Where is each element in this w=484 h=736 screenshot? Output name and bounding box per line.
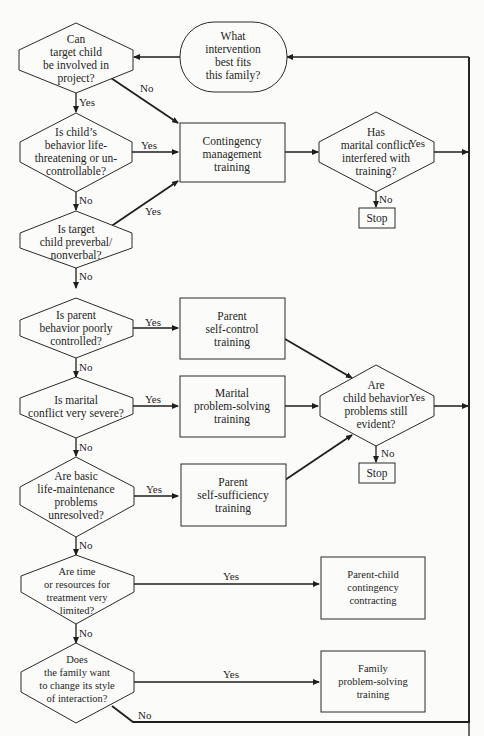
svg-text:problems still: problems still [345, 405, 408, 418]
svg-text:Has: Has [367, 126, 385, 138]
label-d6-no: No [79, 539, 93, 551]
edge-d3-yes [110, 181, 178, 227]
label-d5-no: No [79, 441, 93, 453]
label-d8-yes: Yes [223, 668, 239, 680]
svg-text:problem-solving: problem-solving [194, 400, 270, 413]
label-d4-no: No [79, 361, 93, 373]
svg-text:Parent: Parent [217, 310, 247, 322]
svg-text:Are basic: Are basic [54, 470, 98, 482]
label-d3-yes: Yes [145, 205, 161, 217]
svg-text:intervention: intervention [205, 43, 261, 55]
svg-text:What: What [221, 30, 247, 42]
svg-text:Is child’s: Is child’s [55, 126, 97, 138]
svg-text:Contingency: Contingency [203, 135, 262, 148]
svg-text:problem-solving: problem-solving [338, 676, 408, 687]
svg-text:controllable?: controllable? [46, 165, 106, 177]
svg-text:of interaction?: of interaction? [47, 693, 108, 704]
svg-text:problems: problems [55, 496, 98, 509]
svg-text:or resources for: or resources for [44, 579, 110, 590]
svg-text:training: training [214, 336, 250, 349]
svg-text:contingency: contingency [347, 582, 399, 593]
svg-text:to change its style: to change its style [39, 680, 115, 691]
svg-text:self-control: self-control [205, 323, 258, 335]
label-d6-yes: Yes [146, 483, 162, 495]
svg-text:training: training [357, 689, 390, 700]
svg-text:training?: training? [356, 165, 397, 178]
svg-text:Are time: Are time [58, 566, 95, 577]
label-m2-no: No [381, 447, 395, 459]
svg-text:unresolved?: unresolved? [48, 509, 104, 521]
svg-text:interfered with: interfered with [342, 152, 410, 164]
svg-text:life-maintenance: life-maintenance [37, 483, 114, 495]
svg-text:be involved in: be involved in [43, 59, 109, 71]
flowchart: What intervention best fits this family?… [0, 0, 484, 736]
label-d4-yes: Yes [145, 316, 161, 328]
svg-text:this family?: this family? [206, 69, 261, 82]
stop-2-label: Stop [366, 467, 387, 480]
svg-text:training: training [214, 413, 250, 426]
svg-text:Family: Family [358, 663, 389, 674]
edge-p2-to-m2 [285, 339, 352, 378]
svg-text:evident?: evident? [357, 418, 396, 430]
svg-text:Is marital: Is marital [54, 394, 98, 406]
svg-text:conflict very severe?: conflict very severe? [28, 407, 124, 420]
label-d2-no: No [79, 194, 93, 206]
label-d5-yes: Yes [145, 393, 161, 405]
svg-text:target child: target child [50, 46, 102, 59]
svg-text:training: training [214, 161, 250, 174]
svg-text:child behavior: child behavior [343, 392, 409, 404]
svg-text:child preverbal/: child preverbal/ [40, 236, 113, 249]
svg-text:Is parent: Is parent [56, 309, 97, 322]
label-d7-no: No [79, 627, 93, 639]
svg-text:Parent: Parent [218, 476, 248, 488]
label-m2-yes: Yes [409, 391, 425, 403]
edge-p4-to-m2 [285, 435, 352, 480]
label-d8-no: No [138, 709, 152, 721]
svg-text:controlled?: controlled? [50, 335, 102, 347]
svg-text:self-sufficiency: self-sufficiency [197, 489, 269, 502]
svg-text:behavior life-: behavior life- [45, 139, 107, 151]
svg-text:behavior poorly: behavior poorly [39, 322, 112, 335]
svg-text:threatening or un-: threatening or un- [35, 152, 118, 165]
svg-text:Is target: Is target [57, 223, 95, 236]
svg-text:Parent-child: Parent-child [347, 569, 399, 580]
svg-text:Does: Does [66, 654, 88, 665]
svg-text:the family want: the family want [44, 667, 110, 678]
label-d7-yes: Yes [223, 570, 239, 582]
svg-text:Marital: Marital [215, 387, 249, 399]
stop-1-label: Stop [366, 212, 387, 225]
label-d1-no: No [140, 82, 154, 94]
label-d2-yes: Yes [141, 139, 157, 151]
svg-text:treatment very: treatment very [47, 592, 109, 603]
svg-text:nonverbal?: nonverbal? [50, 249, 101, 261]
process-p5-text: Parent-child contingency contracting [347, 569, 399, 606]
svg-text:management: management [203, 148, 263, 161]
label-m1-yes: Yes [409, 137, 425, 149]
label-d1-yes: Yes [79, 96, 95, 108]
svg-text:project?: project? [57, 72, 94, 85]
svg-text:limited?: limited? [60, 605, 95, 616]
label-d3-no: No [79, 270, 93, 282]
svg-text:marital conflict: marital conflict [341, 139, 412, 151]
svg-text:best fits: best fits [215, 56, 252, 68]
label-m1-no: No [379, 193, 393, 205]
svg-text:Are: Are [367, 379, 384, 391]
svg-text:contracting: contracting [349, 595, 397, 606]
svg-text:training: training [215, 502, 251, 515]
svg-text:Can: Can [67, 33, 86, 45]
